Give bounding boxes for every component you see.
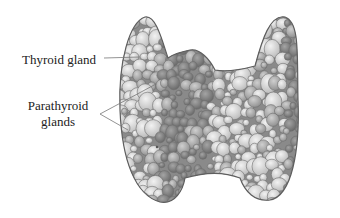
follicle-cell [224, 185, 242, 206]
thyroid-gland-label: Thyroid gland [22, 52, 96, 68]
follicle-cell [188, 18, 195, 26]
follicle-cell [210, 11, 219, 20]
follicle-cell [168, 76, 180, 89]
follicle-cell [258, 200, 265, 208]
follicle-cell [174, 17, 187, 32]
follicle-cell [126, 6, 137, 16]
follicle-cell [246, 174, 253, 180]
follicle-cell [167, 20, 173, 27]
follicle-cell [190, 190, 202, 201]
follicle-cell [227, 43, 238, 55]
follicle-cell [186, 26, 200, 39]
follicle-cell [295, 16, 302, 24]
follicle-cell [280, 199, 293, 210]
follicle-cell [300, 133, 309, 142]
follicle-cell [112, 126, 122, 136]
follicle-cell [221, 35, 231, 45]
follicle-cell [252, 26, 265, 39]
follicle-cell [171, 30, 177, 36]
follicle-cell [247, 37, 259, 49]
follicle-cell [207, 43, 219, 53]
follicle-cell [284, 159, 293, 170]
follicle-cell [298, 192, 310, 203]
follicle-cell [221, 201, 227, 206]
follicle-cell [298, 79, 310, 89]
follicle-cell [121, 123, 130, 133]
follicle-cell [187, 7, 200, 19]
follicle-cell [122, 22, 128, 27]
follicle-cell [296, 126, 304, 132]
follicle-cell [246, 108, 256, 118]
follicle-cell [159, 163, 165, 168]
follicle-cell [237, 10, 246, 18]
follicle-cell [188, 35, 195, 41]
follicle-cell [243, 200, 249, 206]
follicle-cell [200, 9, 211, 19]
follicle-cell [209, 174, 219, 185]
follicle-cell [261, 7, 271, 16]
follicle-cell [189, 62, 197, 71]
follicle-cell [257, 20, 267, 30]
follicle-cell [178, 25, 190, 37]
follicle-cell [127, 186, 142, 198]
follicle-cell [297, 117, 304, 125]
follicle-cell [284, 110, 293, 118]
follicle-cell [242, 3, 257, 20]
follicle-cell [116, 191, 128, 203]
follicle-cell [185, 105, 194, 116]
follicle-cell [192, 34, 202, 44]
follicle-cell [292, 170, 300, 178]
follicle-cell [204, 184, 211, 191]
follicle-cell [204, 197, 214, 209]
follicle-cell [123, 200, 130, 208]
follicle-cell [296, 13, 304, 20]
follicle-cell [299, 26, 306, 33]
follicle-cell [227, 7, 239, 19]
follicle-cell [193, 17, 201, 24]
follicle-cell [171, 101, 178, 108]
follicle-cell [295, 158, 307, 171]
follicle-cell [291, 8, 302, 19]
follicle-cell [266, 145, 273, 152]
parathyroid-glands-label: Parathyroid glands [20, 98, 96, 130]
follicle-cell [241, 17, 252, 30]
parathyroid-label-line1: Parathyroid [20, 98, 96, 114]
follicle-cell [158, 17, 165, 23]
follicle-cell [214, 179, 223, 188]
follicle-cell [209, 14, 226, 32]
follicle-cell [146, 138, 153, 144]
follicle-cell [180, 10, 187, 18]
follicle-cell [284, 53, 291, 60]
follicle-cell [250, 56, 257, 63]
follicle-cell [274, 199, 286, 210]
follicle-cell [254, 10, 266, 23]
follicle-cell [149, 6, 163, 18]
follicle-cell [221, 20, 231, 31]
follicle-cell [170, 6, 184, 20]
follicle-cell [214, 39, 228, 55]
follicle-cell [261, 62, 267, 68]
follicle-cell [226, 28, 239, 39]
follicle-cell [285, 69, 296, 81]
follicle-cell [232, 77, 248, 91]
follicle-cell [153, 44, 162, 51]
follicle-cell [155, 132, 165, 143]
follicle-cell [296, 181, 303, 187]
follicle-cell [176, 90, 182, 96]
follicle-cell [189, 182, 196, 189]
follicle-cell [296, 170, 310, 185]
follicle-cell [202, 43, 210, 51]
follicle-cell [187, 156, 196, 164]
follicle-cell [230, 35, 245, 50]
follicle-cell [176, 40, 183, 48]
follicle-cell [176, 111, 185, 118]
follicle-cell [204, 17, 214, 29]
follicle-cell [267, 113, 280, 126]
follicle-cell [162, 12, 171, 22]
follicle-cell [131, 198, 139, 206]
follicle-cell [207, 163, 213, 169]
follicle-cell [176, 55, 183, 62]
follicle-cell [117, 163, 123, 169]
follicle-cell [206, 193, 214, 200]
follicle-cell [224, 116, 233, 123]
